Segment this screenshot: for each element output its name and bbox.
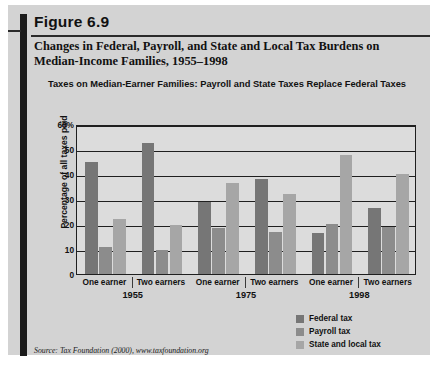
x-axis-year-label: 1975 (189, 290, 302, 300)
x-axis-category-label: Two earners (359, 277, 416, 287)
legend-item: Federal tax (296, 313, 381, 324)
chart-bar (142, 143, 154, 274)
y-axis-tick: 0 (30, 270, 74, 280)
x-axis-separator (132, 277, 133, 288)
gridline (77, 176, 415, 177)
figure-rule-left (8, 30, 21, 32)
gridline (77, 251, 415, 252)
gridline (77, 226, 415, 227)
y-axis-tick: 20 (30, 220, 74, 230)
chart-bar (170, 225, 182, 274)
chart-bar (156, 250, 168, 274)
legend-swatch-icon (296, 341, 304, 349)
x-axis-separator (358, 277, 359, 288)
figure-title: Changes in Federal, Payroll, and State a… (34, 39, 424, 68)
gridline (77, 201, 415, 202)
x-axis-category-labels: One earnerTwo earnersOne earnerTwo earne… (76, 277, 416, 289)
source-note: Source: Tax Foundation (2000), www.taxfo… (34, 346, 209, 355)
legend-item: State and local tax (296, 339, 381, 350)
x-axis-year-label: 1955 (76, 290, 189, 300)
legend-swatch-icon (296, 315, 304, 323)
x-axis-category-label: One earner (303, 277, 360, 287)
chart-bar (283, 194, 295, 274)
figure-card: Figure 6.9 Changes in Federal, Payroll, … (8, 5, 430, 355)
y-axis-tick: 10 (30, 245, 74, 255)
chart-bar (326, 224, 338, 274)
chart-bar (226, 183, 238, 274)
chart-bar (312, 233, 324, 274)
chart-bar (85, 162, 97, 275)
x-axis-category-label: One earner (76, 277, 133, 287)
legend-swatch-icon (296, 328, 304, 336)
legend-label: Federal tax (309, 314, 352, 323)
chart-bar (396, 174, 408, 274)
gridline (77, 126, 415, 127)
x-axis-separator (245, 277, 246, 288)
x-axis-category-label: Two earners (133, 277, 190, 287)
figure-number-label: Figure 6.9 (34, 13, 109, 31)
x-axis-year-label: 1998 (303, 290, 416, 300)
chart-legend: Federal taxPayroll taxState and local ta… (296, 313, 381, 352)
chart-plot-wrapper: Percentage of all taxes paid 01020304050… (30, 109, 422, 309)
chart-subtitle: Taxes on Median-Earner Families: Payroll… (34, 79, 420, 91)
chart-bar (212, 228, 224, 274)
figure-accent-bar (20, 14, 27, 356)
x-axis-category-label: Two earners (246, 277, 303, 287)
y-axis-tick: 60% (30, 120, 74, 130)
chart-bar (255, 179, 267, 274)
figure-underline-rule (31, 35, 430, 37)
y-axis-tick: 50 (30, 145, 74, 155)
legend-label: State and local tax (309, 340, 381, 349)
chart-bar (382, 227, 394, 275)
chart-bar (340, 155, 352, 274)
chart-bar (368, 208, 380, 274)
x-axis-year-labels: 195519751998 (76, 290, 416, 303)
chart-bar (99, 247, 111, 275)
chart-bar (198, 202, 210, 275)
y-axis-tick: 40 (30, 170, 74, 180)
y-axis-tick: 30 (30, 195, 74, 205)
chart-bar (113, 219, 125, 274)
gridline (77, 151, 415, 152)
chart-plot-area (76, 125, 416, 275)
x-axis-category-label: One earner (189, 277, 246, 287)
legend-item: Payroll tax (296, 326, 381, 337)
legend-label: Payroll tax (309, 327, 350, 336)
chart-bar (269, 232, 281, 275)
